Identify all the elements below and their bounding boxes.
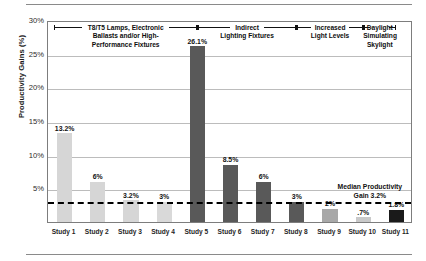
bar-value-label: 3% — [159, 193, 169, 200]
bar-item: 6% — [90, 20, 105, 222]
y-axis-tick-label: 15% — [18, 118, 44, 126]
x-axis-tick-labels: Study 1Study 2Study 3Study 4Study 5Study… — [47, 228, 412, 242]
y-axis-tick-labels: 30%25%20%15%10%5% — [16, 0, 44, 261]
bar — [57, 133, 72, 222]
y-axis-tick-label: 30% — [18, 17, 44, 25]
bar-value-label: 3.2% — [123, 192, 139, 199]
y-axis-tick-label: 5% — [18, 185, 44, 193]
bar-item: 8.5% — [223, 20, 238, 222]
bar — [157, 202, 172, 222]
plot-area: T8/T5 Lamps, ElectronicBallasts and/or H… — [47, 21, 412, 223]
bar-item: 3% — [157, 20, 172, 222]
median-reference-label-line: Median Productivity — [315, 183, 425, 191]
bar-item: 13.2% — [57, 20, 72, 222]
bar-item: 3% — [289, 20, 304, 222]
x-axis-tick-label: Study 5 — [180, 228, 213, 235]
x-axis-tick-label: Study 2 — [80, 228, 113, 235]
bar — [190, 46, 205, 222]
bar — [356, 217, 371, 222]
x-axis-tick-label: Study 4 — [147, 228, 180, 235]
x-axis-tick-label: Study 7 — [246, 228, 279, 235]
x-axis-tick-label: Study 10 — [346, 228, 379, 235]
bar — [389, 210, 404, 222]
x-axis-tick-label: Study 11 — [379, 228, 412, 235]
bar — [223, 165, 238, 222]
y-axis-tick-label: 25% — [18, 51, 44, 59]
bar-item: 3.2% — [123, 20, 138, 222]
bar-value-label: 13.2% — [55, 125, 75, 132]
x-axis-tick-label: Study 6 — [213, 228, 246, 235]
bottom-divider-rule — [26, 254, 412, 255]
bar-value-label: 3% — [292, 193, 302, 200]
productivity-gains-bar-chart: Productivity Gains (%) 30%25%20%15%10%5%… — [0, 0, 426, 261]
y-axis-tick-label: 20% — [18, 84, 44, 92]
bar — [289, 202, 304, 222]
x-axis-tick-label: Study 9 — [312, 228, 345, 235]
bar-item: 26.1% — [190, 20, 205, 222]
median-reference-line — [48, 202, 411, 204]
x-axis-tick-label: Study 3 — [113, 228, 146, 235]
y-axis-tick-label: 10% — [18, 152, 44, 160]
x-axis-tick-label: Study 1 — [47, 228, 80, 235]
median-reference-label-line: Gain 3.2% — [315, 192, 425, 200]
bar-value-label: 6% — [259, 173, 269, 180]
bar-value-label: 26.1% — [188, 38, 208, 45]
median-reference-label: Median ProductivityGain 3.2% — [315, 183, 425, 199]
bar-item: 6% — [256, 20, 271, 222]
bar — [322, 209, 337, 222]
x-axis-tick-label: Study 8 — [279, 228, 312, 235]
bar-value-label: 6% — [93, 173, 103, 180]
top-divider-rule — [26, 4, 412, 5]
bar-value-label: .7% — [357, 209, 369, 216]
bar-value-label: 8.5% — [223, 156, 239, 163]
